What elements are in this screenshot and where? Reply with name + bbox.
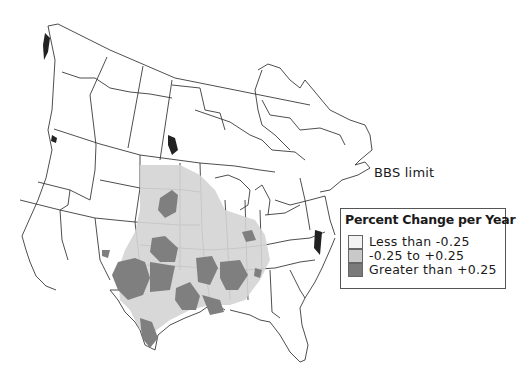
legend-label: Greater than +0.25 bbox=[369, 262, 497, 277]
legend-title: Percent Change per Year bbox=[345, 212, 515, 227]
legend-label: -0.25 to +0.25 bbox=[369, 248, 464, 263]
swatch-increase bbox=[348, 263, 363, 277]
bc-alberta-border bbox=[90, 57, 107, 145]
swatch-stable bbox=[348, 249, 363, 263]
swatch-decline bbox=[348, 235, 363, 249]
quebec-outline bbox=[258, 64, 372, 192]
trend-map bbox=[0, 0, 531, 375]
bbs-limit-label: BBS limit bbox=[374, 165, 434, 180]
pacific-coast bbox=[22, 26, 56, 290]
great-lakes bbox=[215, 175, 300, 215]
us-west-lines bbox=[38, 145, 96, 200]
quebec-interior bbox=[262, 100, 345, 145]
manitoba-ontario-border bbox=[172, 85, 225, 130]
legend: Percent Change per Year Less than -0.25 … bbox=[340, 208, 506, 289]
hudson-bay-coast bbox=[255, 70, 290, 150]
territories-line bbox=[62, 72, 172, 98]
legend-label: Less than -0.25 bbox=[369, 234, 470, 249]
alberta-sask-border bbox=[128, 66, 143, 148]
